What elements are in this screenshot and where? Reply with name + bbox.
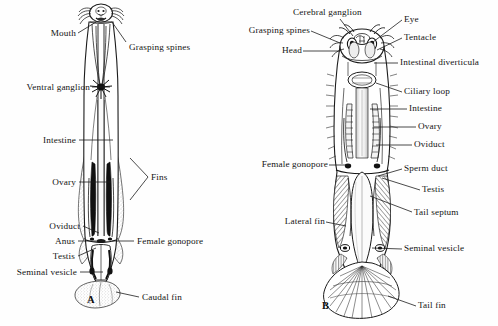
label-b-lateral-fin: Lateral fin — [268, 216, 325, 226]
label-b-tentacle: Tentacle — [404, 32, 436, 42]
figure-canvas: Mouth Ventral ganglion Intestine Ovary O… — [0, 0, 498, 326]
label-b-head: Head — [250, 45, 302, 55]
label-a-caudal-fin: Caudal fin — [142, 292, 182, 302]
label-b-seminal-vesicle: Seminal vesicle — [404, 243, 464, 253]
label-a-female-gonopore: Female gonopore — [137, 236, 203, 246]
label-b-oviduct: Oviduct — [414, 139, 445, 149]
label-b-cerebral-ganglion: Cerebral ganglion — [293, 7, 362, 17]
label-a-grasping-spines: Grasping spines — [129, 42, 190, 52]
label-b-intestinal-diverticula: Intestinal diverticula — [400, 57, 479, 67]
label-b-ovary: Ovary — [418, 121, 442, 131]
label-b-female-gonopore: Female gonopore — [248, 159, 328, 169]
label-b-intestine: Intestine — [409, 103, 442, 113]
label-a-intestine: Intestine — [4, 135, 76, 145]
label-a-oviduct: Oviduct — [4, 221, 80, 231]
panel-letter-a: A — [87, 294, 95, 305]
label-b-sperm-duct: Sperm duct — [404, 163, 448, 173]
label-b-tail-septum: Tail septum — [414, 207, 459, 217]
label-a-fins: Fins — [151, 172, 167, 182]
label-b-ciliary-loop: Ciliary loop — [404, 86, 450, 96]
label-b-grasping-spines: Grasping spines — [232, 25, 310, 35]
panel-letter-b: B — [322, 300, 329, 311]
label-b-eye: Eye — [404, 14, 419, 24]
label-a-ventral-ganglion: Ventral ganglion — [0, 82, 90, 92]
label-b-testis: Testis — [422, 184, 444, 194]
label-b-tail-fin: Tail fin — [418, 300, 446, 310]
label-a-seminal-vesicle: Seminal vesicle — [0, 267, 77, 277]
label-a-anus: Anus — [4, 236, 75, 246]
label-a-mouth: Mouth — [4, 28, 76, 38]
label-a-testis: Testis — [4, 251, 75, 261]
label-a-ovary: Ovary — [4, 177, 76, 187]
